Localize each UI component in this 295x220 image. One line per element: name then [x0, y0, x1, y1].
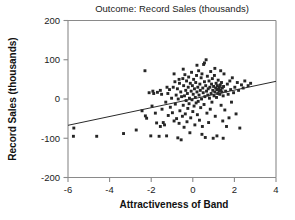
data-point — [167, 114, 170, 117]
data-point — [209, 70, 212, 73]
data-point — [230, 101, 233, 104]
chart-canvas: Outcome: Record Sales (thousands) -6-4-2… — [0, 0, 295, 220]
data-point — [240, 83, 243, 86]
y-axis-label-group: Record Sales (thousands) — [7, 37, 18, 160]
data-point — [202, 91, 205, 94]
data-point — [184, 89, 187, 92]
data-point — [190, 71, 193, 74]
data-point — [184, 112, 187, 115]
data-point — [215, 96, 218, 99]
x-axis-label: Attractiveness of Band — [120, 199, 229, 210]
data-point — [209, 108, 212, 111]
data-point — [208, 86, 211, 89]
data-point — [182, 68, 185, 71]
x-tick-label: -4 — [105, 184, 113, 195]
data-point — [187, 86, 190, 89]
data-point — [217, 79, 220, 82]
data-point — [145, 117, 148, 120]
chart-title-group: Outcome: Record Sales (thousands) — [95, 3, 249, 14]
data-point — [211, 77, 214, 80]
data-point — [183, 73, 186, 76]
y-tick-label: 200 — [44, 15, 60, 26]
data-point — [190, 90, 193, 93]
data-point — [249, 82, 252, 85]
data-point — [154, 112, 157, 115]
data-point — [206, 75, 209, 78]
data-point — [199, 106, 202, 109]
data-point — [233, 86, 236, 89]
data-point — [222, 137, 225, 140]
data-point — [221, 120, 224, 123]
data-point — [228, 116, 231, 119]
data-point — [173, 72, 176, 75]
data-point — [166, 92, 169, 95]
data-point — [196, 90, 199, 93]
data-point — [148, 91, 151, 94]
data-point — [178, 82, 181, 85]
data-point — [156, 91, 159, 94]
data-point — [159, 125, 162, 128]
data-point — [208, 97, 211, 100]
data-point — [178, 122, 181, 125]
chart-title: Outcome: Record Sales (thousands) — [95, 3, 249, 14]
x-tick-label: -2 — [147, 184, 155, 195]
data-point — [196, 113, 199, 116]
data-point — [236, 81, 239, 84]
data-point — [214, 115, 217, 118]
data-point — [201, 133, 204, 136]
data-point — [188, 102, 191, 105]
data-point — [208, 80, 211, 83]
y-tick-label: 0 — [55, 93, 60, 104]
data-point — [186, 107, 189, 110]
data-point — [204, 136, 207, 139]
data-point — [220, 104, 223, 107]
data-point — [223, 72, 226, 75]
data-point — [180, 95, 183, 98]
data-point — [178, 109, 181, 112]
data-point — [219, 69, 222, 72]
x-tick-label: 0 — [190, 184, 195, 195]
data-point — [172, 86, 175, 89]
data-point — [197, 100, 200, 103]
data-point — [199, 89, 202, 92]
data-point — [193, 105, 196, 108]
data-point — [232, 91, 235, 94]
data-point — [231, 76, 234, 79]
data-point — [159, 89, 162, 92]
data-point — [165, 134, 168, 137]
data-point — [235, 112, 238, 115]
data-point — [203, 103, 206, 106]
data-point — [168, 88, 171, 91]
data-point — [178, 78, 181, 81]
data-point — [193, 123, 196, 126]
data-point — [228, 80, 231, 83]
data-point — [223, 109, 226, 112]
data-point — [198, 94, 201, 97]
data-point — [205, 112, 208, 115]
data-point — [226, 83, 229, 86]
data-point — [175, 94, 178, 97]
data-point — [158, 135, 161, 138]
data-point — [192, 93, 195, 96]
data-points — [72, 58, 252, 141]
data-point — [175, 117, 178, 120]
data-point — [215, 134, 218, 137]
data-point — [210, 101, 213, 104]
data-point — [169, 106, 172, 109]
data-point — [207, 121, 210, 124]
data-point — [188, 131, 191, 134]
data-point — [222, 94, 225, 97]
data-point — [227, 93, 230, 96]
data-point — [135, 129, 138, 132]
data-point — [181, 77, 184, 80]
data-point — [170, 97, 173, 100]
data-point — [177, 98, 180, 101]
data-point — [193, 87, 196, 90]
y-axis-ticks: -200-1000100200 — [41, 15, 68, 183]
data-point — [205, 58, 208, 61]
data-point — [149, 134, 152, 137]
data-point — [196, 64, 199, 67]
data-point — [173, 80, 176, 83]
data-point — [160, 93, 163, 96]
x-axis-ticks: -6-4-2024 — [64, 178, 279, 195]
